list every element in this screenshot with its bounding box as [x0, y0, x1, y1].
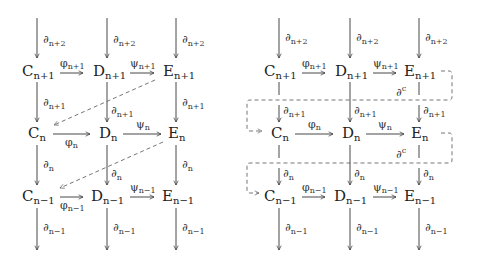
- svg-text:φn−1: φn−1: [60, 199, 85, 213]
- svg-text:∂n+2: ∂n+2: [113, 33, 136, 48]
- node-E-n: En: [168, 124, 186, 143]
- svg-text:∂n: ∂n: [182, 158, 193, 173]
- svg-text:∂n: ∂n: [43, 158, 54, 173]
- svg-text:∂n: ∂n: [354, 167, 365, 182]
- svg-text:∂n: ∂n: [423, 167, 434, 182]
- svg-text:φn: φn: [65, 136, 78, 150]
- node-D-n+1: Dn+1: [93, 62, 126, 81]
- svg-text:∂c: ∂c: [396, 146, 407, 161]
- svg-text:∂n+1: ∂n+1: [182, 96, 205, 111]
- node-E-n+1: En+1: [163, 62, 195, 81]
- svg-text:φn: φn: [308, 118, 321, 132]
- node-D-n: Dn: [342, 124, 361, 143]
- svg-text:φn+1: φn+1: [302, 57, 327, 71]
- svg-text:∂n+1: ∂n+1: [283, 104, 306, 119]
- svg-text:∂n−1: ∂n−1: [425, 221, 448, 236]
- node-D-n+1: Dn+1: [335, 62, 368, 81]
- svg-text:∂c: ∂c: [396, 84, 407, 99]
- svg-text:∂n+1: ∂n+1: [354, 104, 377, 119]
- svg-text:∂n+2: ∂n+2: [43, 33, 66, 48]
- node-C-n+1: Cn+1: [264, 62, 297, 81]
- node-E-n+1: En+1: [404, 62, 436, 81]
- node-D-n-1: Dn−1: [334, 187, 367, 206]
- svg-text:∂n: ∂n: [111, 167, 122, 182]
- svg-text:φn+1: φn+1: [60, 57, 85, 71]
- left-diagram: ∂n+2 ∂n+2 ∂n+2 ∂n+1 ∂n+1 ∂n+1 ∂n ∂n ∂n ∂…: [22, 18, 205, 250]
- svg-text:∂n−1: ∂n−1: [113, 221, 136, 236]
- svg-text:φn−1: φn−1: [302, 181, 327, 195]
- right-diagram: ∂n+2 ∂n+2 ∂n+2 ∂n+1 ∂n+1 ∂n+1 ∂n ∂n ∂n ∂…: [247, 18, 452, 250]
- svg-text:ψn+1: ψn+1: [130, 57, 156, 71]
- svg-text:∂n+2: ∂n+2: [356, 31, 379, 46]
- node-D-n-1: Dn−1: [91, 187, 124, 206]
- svg-text:∂n−1: ∂n−1: [356, 221, 379, 236]
- svg-text:∂n−1: ∂n−1: [43, 221, 66, 236]
- svg-text:∂n+1: ∂n+1: [423, 104, 446, 119]
- node-C-n-1: Cn−1: [264, 187, 297, 206]
- node-E-n-1: En−1: [404, 187, 436, 206]
- svg-text:ψn: ψn: [136, 118, 150, 132]
- svg-text:ψn−1: ψn−1: [130, 181, 156, 195]
- svg-text:∂n+2: ∂n+2: [425, 31, 448, 46]
- node-E-n: En: [411, 124, 429, 143]
- svg-text:ψn: ψn: [378, 118, 392, 132]
- node-C-n+1: Cn+1: [22, 62, 55, 81]
- node-C-n: Cn: [28, 124, 46, 143]
- svg-text:∂n+2: ∂n+2: [285, 31, 308, 46]
- node-E-n-1: En−1: [162, 187, 194, 206]
- node-C-n: Cn: [271, 124, 289, 143]
- left-nodes: Cn+1 Dn+1 En+1 Cn Dn En Cn−1 Dn−1 En−1: [22, 62, 195, 206]
- svg-text:ψn+1: ψn+1: [373, 57, 399, 71]
- svg-text:∂n+1: ∂n+1: [111, 104, 134, 119]
- svg-text:∂n−1: ∂n−1: [285, 221, 308, 236]
- node-C-n-1: Cn−1: [22, 187, 55, 206]
- svg-text:∂n+2: ∂n+2: [182, 33, 205, 48]
- svg-text:ψn−1: ψn−1: [373, 181, 399, 195]
- svg-text:∂n: ∂n: [283, 167, 294, 182]
- chain-complex-figure: ∂n+2 ∂n+2 ∂n+2 ∂n+1 ∂n+1 ∂n+1 ∂n ∂n ∂n ∂…: [0, 0, 478, 262]
- node-D-n: Dn: [99, 124, 118, 143]
- svg-text:∂n−1: ∂n−1: [182, 221, 205, 236]
- svg-text:∂n+1: ∂n+1: [43, 96, 66, 111]
